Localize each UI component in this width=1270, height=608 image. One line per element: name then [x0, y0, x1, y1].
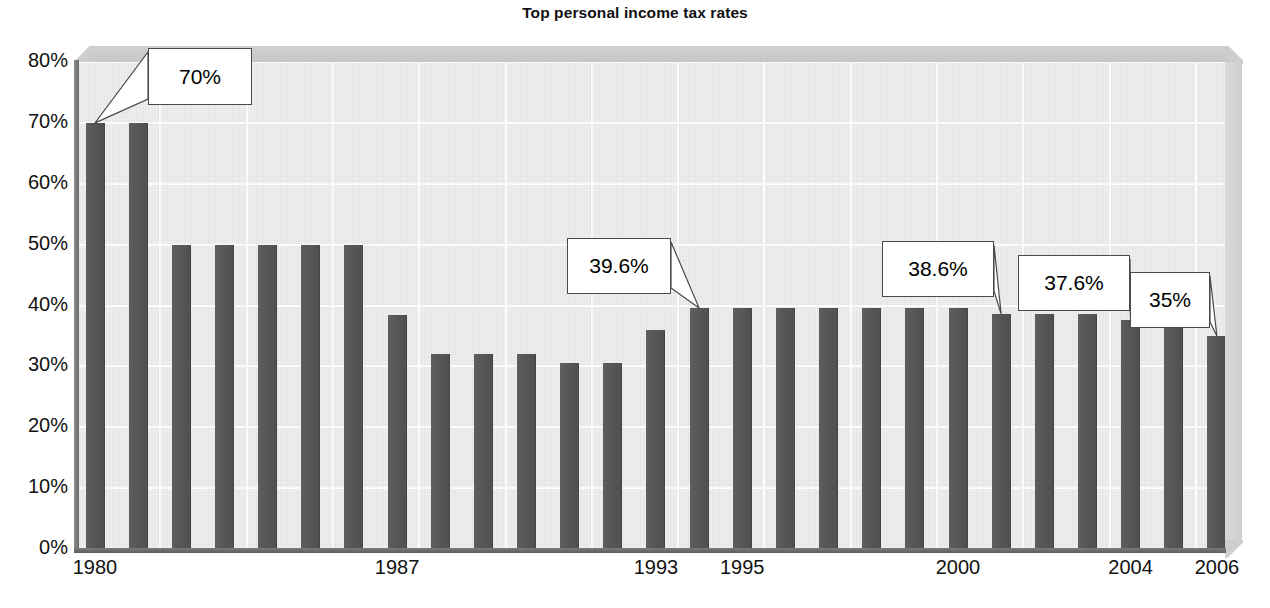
y-axis-tick-label: 30%: [2, 353, 68, 376]
bar: [172, 245, 191, 549]
y-axis-line: [74, 60, 79, 551]
bar: [1164, 321, 1183, 549]
bar: [776, 308, 795, 549]
bar: [733, 308, 752, 549]
bar: [603, 363, 622, 549]
x-axis-tick-label: 2000: [936, 556, 981, 579]
gridline-vertical: [505, 62, 507, 549]
bar: [560, 363, 579, 549]
bar: [388, 315, 407, 549]
x-axis-tick-label: 1987: [375, 556, 420, 579]
bar: [474, 354, 493, 549]
callout-label: 70%: [148, 48, 252, 105]
x-axis-tick-label: 1993: [634, 556, 679, 579]
bar: [949, 308, 968, 549]
bar: [992, 314, 1011, 549]
y-axis-tick-label: 50%: [2, 232, 68, 255]
x-axis-tick-label: 2006: [1195, 556, 1240, 579]
x-axis-tick-label: 1980: [73, 556, 118, 579]
gridline-vertical: [246, 62, 248, 549]
y-axis-tick-label: 10%: [2, 475, 68, 498]
chart-title: Top personal income tax rates: [0, 4, 1270, 22]
x-axis-tick-label: 1995: [720, 556, 765, 579]
gridline-vertical: [850, 62, 852, 549]
bar: [1207, 336, 1225, 549]
callout-label: 38.6%: [882, 241, 994, 297]
plot-3d-right-face: [1225, 62, 1242, 549]
bar: [1035, 314, 1054, 549]
callout-label: 39.6%: [567, 238, 671, 294]
bar: [129, 123, 148, 549]
bar: [690, 308, 709, 549]
bar: [344, 245, 363, 549]
y-axis-tick-label: 80%: [2, 49, 68, 72]
y-axis-tick-label: 40%: [2, 293, 68, 316]
gridline-horizontal: [78, 183, 1225, 185]
gridline-vertical: [332, 62, 334, 549]
gridline-vertical: [763, 62, 765, 549]
gridline-vertical: [936, 62, 938, 549]
bar: [862, 308, 881, 549]
bar: [819, 308, 838, 549]
gridline-vertical: [418, 62, 420, 549]
bar: [1078, 314, 1097, 549]
bar: [258, 245, 277, 549]
gridline-vertical: [677, 62, 679, 549]
chart-figure: Top personal income tax rates 0%10%20%30…: [0, 0, 1270, 608]
bar: [1121, 320, 1140, 549]
y-axis-tick-label: 70%: [2, 110, 68, 133]
bar: [517, 354, 536, 549]
bar: [646, 330, 665, 549]
bar: [215, 245, 234, 549]
gridline-horizontal: [78, 122, 1225, 124]
bar: [301, 245, 320, 549]
y-axis-tick-label: 20%: [2, 414, 68, 437]
callout-label: 35%: [1130, 272, 1210, 328]
y-axis-tick-label: 0%: [2, 536, 68, 559]
bar: [86, 123, 105, 549]
x-axis-tick-label: 2004: [1108, 556, 1153, 579]
gridline-vertical: [591, 62, 593, 549]
bar: [905, 308, 924, 549]
y-axis-tick-label: 60%: [2, 171, 68, 194]
callout-label: 37.6%: [1018, 255, 1130, 311]
x-axis-line: [74, 548, 1226, 553]
bar: [431, 354, 450, 549]
gridline-vertical: [159, 62, 161, 549]
